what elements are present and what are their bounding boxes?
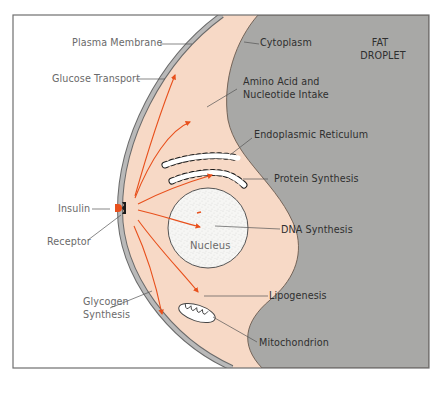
label-dna-synthesis: DNA Synthesis <box>281 224 353 236</box>
label-insulin: Insulin <box>58 203 90 215</box>
label-mitochondrion: Mitochondrion <box>259 337 329 349</box>
label-fat-droplet-2: DROPLET <box>358 50 408 62</box>
label-glucose-transport: Glucose Transport <box>52 73 140 85</box>
label-plasma-membrane: Plasma Membrane <box>72 37 163 49</box>
label-fat-droplet-1: FAT <box>360 37 400 49</box>
label-lipogenesis: Lipogenesis <box>269 290 327 302</box>
label-nucleus: Nucleus <box>190 240 231 252</box>
label-cytoplasm: Cytoplasm <box>260 37 312 49</box>
label-amino-acid-2: Nucleotide Intake <box>243 89 329 101</box>
label-glycogen-synthesis-1: Glycogen <box>83 296 129 308</box>
label-amino-acid-1: Amino Acid and <box>243 76 320 88</box>
nucleus <box>168 188 248 268</box>
label-protein-synthesis: Protein Synthesis <box>274 173 359 185</box>
label-receptor: Receptor <box>47 236 91 248</box>
label-endoplasmic-reticulum: Endoplasmic Reticulum <box>254 129 368 141</box>
label-glycogen-synthesis-2: Synthesis <box>83 309 130 321</box>
